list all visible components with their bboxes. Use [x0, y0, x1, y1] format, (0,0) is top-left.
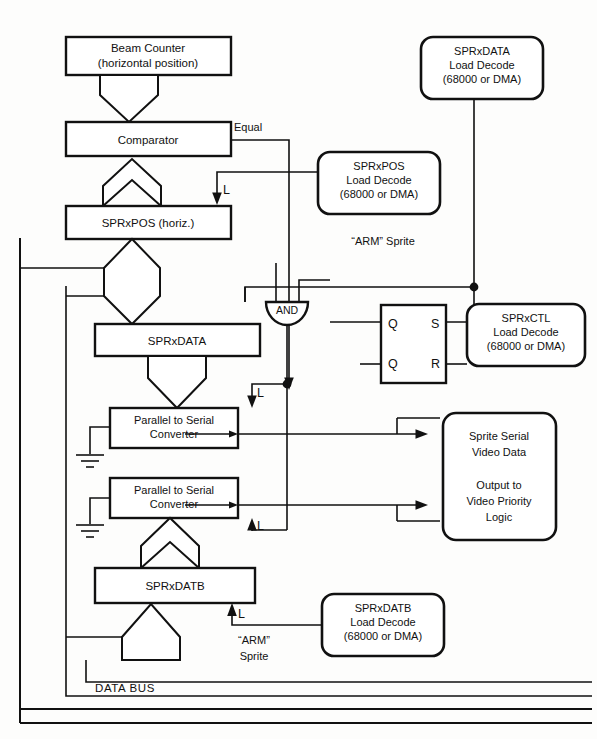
sprxdatb-decode-line3: (68000 or DMA) — [344, 630, 422, 642]
arm-sprite-top-label: “ARM” Sprite — [351, 235, 415, 247]
and-input-b-wire — [299, 280, 330, 302]
sprxdatb-label: SPRxDATB — [145, 580, 205, 592]
load-converter-b-label: L — [257, 519, 264, 533]
video-output-line1: Sprite Serial — [469, 430, 529, 442]
sprxpos-decode-line1: SPRxPOS — [353, 160, 404, 172]
sprxctl-decode-line1: SPRxCTL — [502, 312, 551, 324]
load-converter-b-wire — [247, 518, 287, 531]
funnel-sprxdata-to-converter-a — [148, 356, 206, 408]
sprxdata-label: SPRxDATA — [148, 335, 207, 347]
arm-sprite-bottom-line2: Sprite — [240, 650, 269, 662]
arm-sprite-bottom-line1: “ARM” — [238, 634, 270, 646]
converter-a-label-line1: Parallel to Serial — [134, 414, 214, 426]
beam-counter-label-line2: (horizontal position) — [98, 57, 199, 69]
bus-tap-sprxpos-sprxdata — [104, 239, 160, 324]
and-gate-label: AND — [276, 304, 299, 316]
load-converter-a-wire — [247, 384, 287, 408]
sprxpos-decode-line3: (68000 or DMA) — [340, 188, 418, 200]
video-output-line4: Video Priority — [466, 495, 532, 507]
sprxdata-decode-to-set-wire — [435, 99, 474, 322]
funnel-beam-to-comparator — [100, 75, 158, 122]
sprxdata-decode-line2: Load Decode — [449, 59, 514, 71]
flipflop-pin-r: R — [431, 357, 440, 371]
sprxpos-label: SPRxPOS (horiz.) — [102, 217, 195, 229]
sprxdata-decode-line1: SPRxDATA — [454, 45, 510, 57]
bus-tap-sprxdatb — [122, 604, 180, 660]
ground-symbol-b — [76, 498, 110, 537]
chevron-pos-to-comparator — [103, 159, 161, 206]
ground-symbol-a — [76, 427, 110, 467]
video-output-line3: Output to — [476, 479, 521, 491]
sprite-block-diagram: Beam Counter (horizontal position) Compa… — [0, 0, 597, 739]
data-bus-label: DATA BUS — [95, 682, 155, 694]
sprxdata-decode-line3: (68000 or DMA) — [443, 73, 521, 85]
chevron-datb-to-converter-b — [141, 518, 199, 568]
video-output-line2: Video Data — [472, 446, 527, 458]
flipflop-pin-q-bottom: Q — [388, 357, 398, 371]
load-converter-a-label: L — [257, 386, 264, 400]
flipflop-pin-s: S — [431, 317, 439, 331]
equal-signal-label: Equal — [234, 121, 262, 133]
flipflop-pin-q-top: Q — [388, 317, 398, 331]
serial-output-b-wire — [238, 500, 428, 510]
diagram-canvas: Beam Counter (horizontal position) Compa… — [0, 0, 597, 739]
converter-b-label-line2: Converter — [150, 498, 199, 510]
sprxdatb-decode-line1: SPRxDATB — [355, 602, 412, 614]
arm-sprite-feedback-wire — [245, 287, 474, 302]
sprxctl-decode-line2: Load Decode — [493, 326, 558, 338]
sprxpos-decode-line2: Load Decode — [346, 174, 411, 186]
comparator-label: Comparator — [118, 134, 179, 146]
beam-counter-label-line1: Beam Counter — [111, 42, 185, 54]
load-pos-label: L — [223, 183, 230, 197]
serial-output-a-wire — [238, 429, 428, 439]
sprxdatb-decode-line2: Load Decode — [350, 616, 415, 628]
load-datb-label: L — [238, 607, 245, 621]
converter-b-label-line1: Parallel to Serial — [134, 484, 214, 496]
video-output-line5: Logic — [486, 511, 513, 523]
sprxctl-decode-line3: (68000 or DMA) — [487, 340, 565, 352]
